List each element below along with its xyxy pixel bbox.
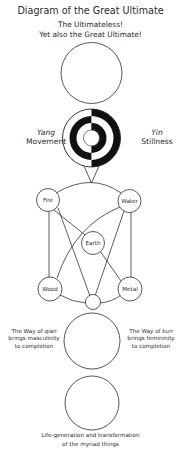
kun-caption: The Way of kun brings femininity to comp…: [122, 328, 180, 350]
label-water: Water: [117, 198, 142, 205]
great-ultimate-diagram: [0, 0, 181, 452]
kun-line3: to completion: [122, 343, 180, 350]
label-earth: Earth: [81, 240, 105, 247]
node-union: [86, 295, 101, 310]
myriad-caption-line1: Life-generation and transformation: [0, 432, 181, 439]
myriad-things-circle: [65, 376, 119, 430]
label-fire: Fire: [36, 197, 60, 204]
qian-line2: brings masculinity: [3, 335, 65, 342]
yang-movement: Movement: [26, 137, 66, 146]
wuji-circle: [61, 43, 122, 104]
qian-kun-circle: [64, 313, 120, 369]
label-wood: Wood: [38, 286, 62, 293]
kun-line2: brings femininity: [122, 335, 180, 342]
qian-caption: The Way of qian brings masculinity to co…: [3, 328, 65, 350]
kun-line1-pre: The Way of: [129, 328, 162, 334]
yin-stillness: Stillness: [139, 137, 175, 146]
connector-v: [84, 166, 99, 183]
myriad-caption-line2: of the myriad things: [0, 441, 181, 448]
arc-fire-water: [56, 183, 121, 194]
kun-term: kun: [162, 328, 172, 334]
yinyang-circle: [63, 109, 121, 167]
qian-term: qian: [44, 328, 56, 334]
yang-label: Yang Movement: [26, 128, 66, 147]
qian-line3: to completion: [3, 343, 65, 350]
label-metal: Metal: [118, 286, 142, 293]
yang-name: Yang: [26, 128, 66, 137]
yin-label: Yin Stillness: [139, 128, 175, 147]
qian-line1-pre: The Way of: [11, 328, 44, 334]
yin-name: Yin: [139, 128, 175, 137]
